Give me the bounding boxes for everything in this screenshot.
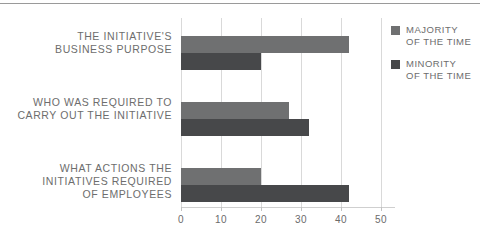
legend-item-minority: MINORITY OF THE TIME [391,58,480,81]
bar-minority-1 [181,53,261,70]
plot-area [181,18,381,207]
bar-minority-3 [181,185,349,202]
x-tick-50 [381,207,382,211]
category-label-what-actions: WHAT ACTIONS THE INITIATIVES REQUIRED OF… [9,162,181,201]
legend-item-majority: MAJORITY OF THE TIME [391,24,480,47]
bar-chart-figure: 0 10 20 30 40 50 THE INITIATIVE'S BUSINE… [0,0,480,243]
gridline-50 [381,18,382,207]
x-tick-label-10: 10 [206,214,236,225]
x-tick-label-30: 30 [286,214,316,225]
x-axis-line [181,207,395,208]
x-tick-20 [261,207,262,211]
x-tick-30 [301,207,302,211]
x-tick-label-0: 0 [166,214,196,225]
legend-swatch-minority-icon [391,60,400,69]
bar-majority-2 [181,102,289,119]
x-tick-0 [181,207,182,211]
bar-majority-1 [181,36,349,53]
x-tick-label-50: 50 [366,214,396,225]
x-tick-10 [221,207,222,211]
x-tick-label-40: 40 [326,214,356,225]
category-label-business-purpose: THE INITIATIVE'S BUSINESS PURPOSE [9,30,181,56]
x-tick-label-20: 20 [246,214,276,225]
bar-majority-3 [181,168,261,185]
legend-swatch-majority-icon [391,26,400,35]
category-label-who-required: WHO WAS REQUIRED TO CARRY OUT THE INITIA… [9,96,181,122]
legend-label-minority: MINORITY OF THE TIME [406,58,471,81]
chart-legend: MAJORITY OF THE TIME MINORITY OF THE TIM… [391,24,480,92]
top-divider [0,3,480,4]
x-tick-40 [341,207,342,211]
legend-label-majority: MAJORITY OF THE TIME [406,24,471,47]
bar-minority-2 [181,119,309,136]
